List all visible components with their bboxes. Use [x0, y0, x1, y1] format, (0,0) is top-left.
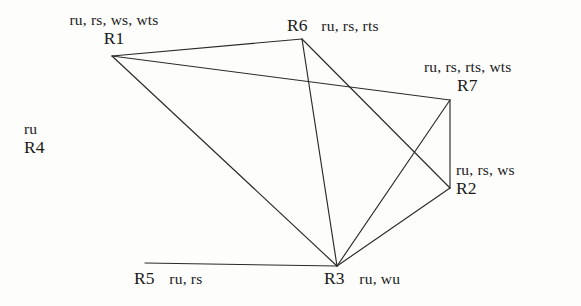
node-R4-attributes: ru — [24, 119, 45, 138]
node-R7-name: R7 — [457, 76, 512, 95]
node-R3-name: R3 — [324, 268, 345, 288]
node-R5-attributes: ru, rs — [169, 270, 202, 287]
node-R2-attributes: ru, rs, ws — [456, 160, 515, 179]
node-R3: R3 ru, wu — [324, 269, 400, 288]
edge-R1-R3 — [112, 56, 337, 266]
node-R2: ru, rs, ws R2 — [456, 160, 515, 198]
edge-R1-R7 — [112, 56, 450, 100]
edge-R6-R3 — [302, 39, 337, 266]
node-R1: ru, rs, ws, wts R1 — [34, 10, 194, 48]
edge-R2-R3 — [337, 188, 450, 266]
node-R5: R5 ru, rs — [134, 269, 202, 288]
node-R6: R6 ru, rs, rts — [287, 16, 379, 35]
node-R1-name: R1 — [34, 29, 194, 48]
node-R6-name: R6 — [287, 15, 308, 35]
edge-R5-R3 — [145, 263, 337, 266]
edge-R7-R3 — [337, 100, 450, 266]
node-R7-attributes: ru, rs, rts, wts — [424, 57, 512, 76]
node-R1-attributes: ru, rs, ws, wts — [34, 10, 194, 29]
node-R3-attributes: ru, wu — [359, 270, 400, 287]
node-R7: ru, rs, rts, wts R7 — [424, 57, 512, 95]
graph-diagram: ru, rs, ws, wts R1 R6 ru, rs, rts ru, rs… — [0, 0, 581, 306]
node-R5-name: R5 — [134, 268, 155, 288]
node-R6-attributes: ru, rs, rts — [321, 17, 378, 34]
node-R2-name: R2 — [456, 179, 515, 198]
node-R4: ru R4 — [24, 119, 45, 157]
node-R4-name: R4 — [24, 138, 45, 157]
